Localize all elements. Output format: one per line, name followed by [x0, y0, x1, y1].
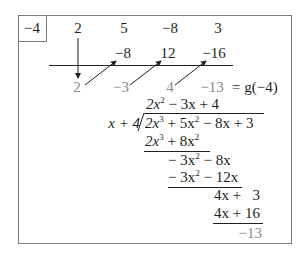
subtract-step-3: 4x + 16 [214, 206, 260, 221]
subtract-step-2: − 3x2 − 12x [168, 170, 238, 185]
step-rule [213, 223, 263, 224]
final-remainder: −13 [239, 226, 262, 241]
remainder-step-2: 4x + 3 [214, 188, 260, 203]
division-bracket-icon [137, 112, 145, 132]
quotient: 2x2 − 3x + 4 [146, 97, 219, 112]
remainder-step-1: − 3x2 − 8x [168, 153, 231, 168]
long-divisor: x + 4 [108, 116, 140, 131]
diagonal-arrow-icon [85, 61, 116, 85]
diagonal-arrow-icon [130, 61, 161, 85]
dividend: 2x3 + 5x2 − 8x + 3 [145, 116, 254, 131]
diagonal-arrow-icon [175, 61, 206, 85]
subtract-step-1: 2x3 + 8x2 [145, 134, 199, 149]
